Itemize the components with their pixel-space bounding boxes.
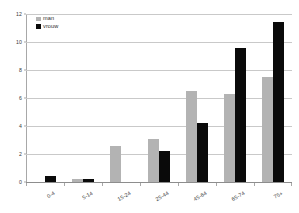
- x-tick-label: 25-44: [154, 190, 169, 202]
- bar-group: [178, 14, 216, 182]
- bar-man: [72, 179, 83, 182]
- chart-legend: man vrouw: [36, 16, 58, 29]
- y-tick-label: 12: [16, 11, 22, 17]
- bar-vrouw: [273, 22, 284, 182]
- bar-man: [224, 94, 235, 182]
- legend-item-man: man: [36, 16, 58, 22]
- bar-vrouw: [159, 151, 170, 182]
- y-tick-label: 6: [19, 95, 22, 101]
- x-tick-label: 0-4: [46, 190, 56, 199]
- x-tick-label: 15-24: [116, 190, 131, 202]
- y-tick-label: 2: [19, 151, 22, 157]
- x-tick-mark: [254, 183, 255, 186]
- y-tick-label: 10: [16, 39, 22, 45]
- bar-group: [216, 14, 254, 182]
- bar-man: [262, 77, 273, 182]
- bar-man: [110, 146, 121, 182]
- plot-area: 024681012: [26, 14, 292, 182]
- x-axis-ticks: 0-45-1415-2425-4445-6465-7475+: [26, 183, 292, 213]
- bar-group: [254, 14, 292, 182]
- x-tick-label: 45-64: [192, 190, 207, 202]
- x-tick-mark: [178, 183, 179, 186]
- x-tick-label: 5-14: [81, 190, 94, 201]
- x-tick-mark: [291, 183, 292, 186]
- x-tick-mark: [26, 183, 27, 186]
- x-tick-label: 75+: [273, 190, 284, 200]
- bar-vrouw: [45, 176, 56, 182]
- y-tick-label: 0: [19, 179, 22, 185]
- x-tick-mark: [102, 183, 103, 186]
- x-tick-label: 65-74: [230, 190, 245, 202]
- bar-group: [102, 14, 140, 182]
- bar-group: [64, 14, 102, 182]
- bar-group: [140, 14, 178, 182]
- bar-man: [148, 139, 159, 182]
- bar-group: [26, 14, 64, 182]
- legend-item-vrouw: vrouw: [36, 24, 58, 30]
- bar-chart: 024681012 0-45-1415-2425-4445-6465-7475+…: [0, 0, 299, 213]
- bar-man: [186, 91, 197, 182]
- bars-layer: [26, 14, 292, 182]
- legend-label-vrouw: vrouw: [43, 24, 58, 30]
- x-tick-mark: [216, 183, 217, 186]
- x-tick-mark: [140, 183, 141, 186]
- y-tick-label: 8: [19, 67, 22, 73]
- bar-vrouw: [197, 123, 208, 182]
- legend-swatch-vrouw-icon: [36, 24, 41, 29]
- bar-vrouw: [235, 48, 246, 182]
- y-tick-label: 4: [19, 123, 22, 129]
- legend-swatch-man-icon: [36, 17, 41, 22]
- legend-label-man: man: [43, 16, 54, 22]
- x-tick-mark: [64, 183, 65, 186]
- bar-vrouw: [83, 179, 94, 182]
